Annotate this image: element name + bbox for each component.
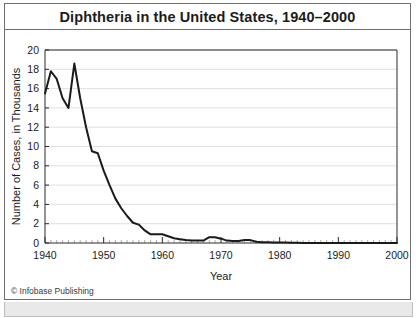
- y-tick-label: 8: [33, 159, 39, 171]
- y-tick-label: 20: [27, 44, 39, 56]
- y-tick-label: 6: [33, 179, 39, 191]
- x-tick-label: 1940: [33, 249, 57, 261]
- x-tick-label: 1970: [209, 249, 233, 261]
- x-tick-label: 1960: [151, 249, 175, 261]
- series-line-diphtheria-cases: [45, 64, 397, 243]
- y-tick-label: 2: [33, 217, 39, 229]
- credit-line: © Infobase Publishing: [11, 286, 94, 296]
- plot-area: 02468101214161820 1940195019601970198019…: [0, 0, 416, 318]
- x-tick-labels: 1940195019601970198019902000: [33, 249, 409, 261]
- y-tick-labels: 02468101214161820: [27, 44, 39, 249]
- y-tick-label: 10: [27, 140, 39, 152]
- line-chart: 02468101214161820 1940195019601970198019…: [0, 0, 416, 318]
- y-tick-label: 4: [33, 198, 39, 210]
- y-axis-title: Number of Cases, in Thousands: [10, 67, 22, 225]
- x-axis-title: Year: [210, 270, 233, 282]
- y-tick-label: 12: [27, 121, 39, 133]
- bottom-band: [4, 302, 413, 317]
- y-tick-label: 18: [27, 63, 39, 75]
- figure-container: Diphtheria in the United States, 1940–20…: [0, 0, 416, 318]
- x-tick-label: 1990: [327, 249, 351, 261]
- x-tick-label: 1980: [268, 249, 292, 261]
- x-tick-label: 1950: [92, 249, 116, 261]
- y-tick-label: 14: [27, 102, 39, 114]
- x-tick-label: 2000: [385, 249, 409, 261]
- y-tick-label: 16: [27, 82, 39, 94]
- gridlines-group: [45, 50, 397, 224]
- y-tick-label: 0: [33, 237, 39, 249]
